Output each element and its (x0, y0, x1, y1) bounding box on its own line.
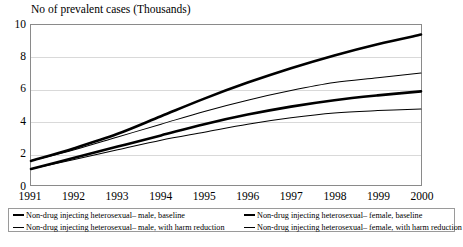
legend-item[interactable]: Non-drug injecting heterosexual– male, w… (9, 223, 240, 232)
chart-legend: Non-drug injecting heterosexual– male, b… (8, 208, 455, 232)
legend-item[interactable]: Non-drug injecting heterosexual– female,… (240, 211, 462, 220)
x-axis-tick-label: 1999 (358, 190, 398, 202)
legend-line-swatch (244, 214, 255, 217)
x-axis-tick-label: 2000 (402, 190, 442, 202)
x-axis-tick-label: 1997 (271, 190, 311, 202)
x-axis-tick-label: 1992 (54, 190, 94, 202)
y-axis-tick-label: 6 (0, 83, 26, 95)
series-line-3 (31, 91, 421, 169)
chart-container: No of prevalent cases (Thousands) 024681… (0, 0, 463, 247)
y-axis-tick-label: 4 (0, 116, 26, 128)
series-line-2 (31, 73, 421, 161)
x-axis-tick-label: 1996 (228, 190, 268, 202)
y-axis-tick-label: 8 (0, 51, 26, 63)
x-axis-tick-label: 1993 (97, 190, 137, 202)
chart-title: No of prevalent cases (Thousands) (31, 2, 191, 16)
legend-item-label: Non-drug injecting heterosexual– male, b… (26, 211, 185, 220)
x-axis-tick-label: 1995 (184, 190, 224, 202)
legend-item[interactable]: Non-drug injecting heterosexual– male, b… (9, 211, 240, 220)
legend-item-label: Non-drug injecting heterosexual– female,… (257, 223, 462, 232)
x-axis-tick-label: 1991 (10, 190, 50, 202)
legend-line-swatch (244, 227, 255, 228)
legend-line-swatch (13, 227, 24, 228)
plot-area (30, 24, 422, 186)
legend-item-label: Non-drug injecting heterosexual– female,… (257, 211, 422, 220)
legend-item-label: Non-drug injecting heterosexual– male, w… (26, 223, 225, 232)
x-axis-tick-label: 1994 (141, 190, 181, 202)
series-lines (31, 25, 421, 185)
y-axis-tick-label: 10 (0, 19, 26, 31)
legend-line-swatch (13, 214, 24, 217)
y-axis-tick-label: 2 (0, 148, 26, 160)
x-axis-tick-label: 1998 (315, 190, 355, 202)
legend-item[interactable]: Non-drug injecting heterosexual– female,… (240, 223, 462, 232)
